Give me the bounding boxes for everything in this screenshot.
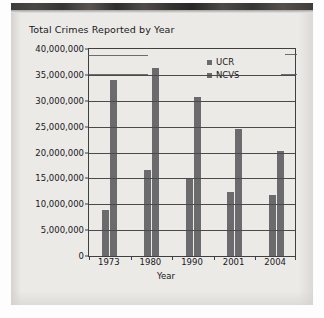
gridline bbox=[89, 153, 295, 154]
paper-sheet: Total Crimes Reported by Year UCRNCVS 05… bbox=[11, 13, 313, 305]
bar-ncvs-2001 bbox=[235, 129, 242, 256]
x-axis-tick-label-1990: 1990 bbox=[181, 257, 203, 267]
y-axis-tick-label: 20,000,000 bbox=[35, 148, 84, 158]
gridline bbox=[89, 178, 295, 179]
x-axis-tick-label-1980: 1980 bbox=[140, 257, 162, 267]
y-axis-tick-mark bbox=[85, 126, 89, 127]
y-axis-tick-mark bbox=[85, 178, 89, 179]
x-axis-tick-mark bbox=[172, 256, 173, 260]
gridline bbox=[89, 204, 295, 205]
scanned-page: Total Crimes Reported by Year UCRNCVS 05… bbox=[0, 0, 324, 318]
x-axis-tick-mark bbox=[214, 256, 215, 260]
x-axis-tick-label-2004: 2004 bbox=[264, 257, 286, 267]
x-axis-tick-mark bbox=[131, 256, 132, 260]
y-axis-tick-mark bbox=[85, 230, 89, 231]
bar-ucr-1973 bbox=[102, 210, 109, 256]
gridline bbox=[89, 101, 295, 102]
x-axis-tick-label-2001: 2001 bbox=[223, 257, 245, 267]
y-axis-tick-mark bbox=[85, 204, 89, 205]
bar-ucr-2001 bbox=[227, 192, 234, 256]
y-axis-tick-label: 15,000,000 bbox=[35, 173, 84, 183]
y-axis-tick-mark bbox=[85, 152, 89, 153]
legend-label: UCR bbox=[216, 58, 234, 67]
chart-legend: UCRNCVS bbox=[207, 56, 240, 82]
x-axis-tick-mark bbox=[295, 256, 296, 260]
x-axis-label-text: Year bbox=[157, 271, 175, 281]
y-axis-tick-label: 0 bbox=[79, 251, 84, 261]
bar-chart-figure: Total Crimes Reported by Year UCRNCVS 05… bbox=[11, 13, 313, 305]
x-axis-tick-mark bbox=[89, 256, 90, 260]
y-axis-tick-mark bbox=[85, 49, 89, 50]
scan-shadow-band bbox=[11, 3, 313, 10]
legend-item-ucr: UCR bbox=[207, 56, 240, 69]
y-axis-tick-label: 25,000,000 bbox=[35, 122, 84, 132]
y-axis-tick-mark bbox=[85, 100, 89, 101]
gridline bbox=[89, 75, 295, 76]
x-axis-tick-label-1973: 1973 bbox=[98, 257, 120, 267]
legend-swatch-icon bbox=[207, 60, 212, 65]
gridline bbox=[89, 230, 295, 231]
chart-title: Total Crimes Reported by Year bbox=[29, 24, 175, 35]
gridline bbox=[89, 127, 295, 128]
y-axis-tick-mark bbox=[85, 74, 89, 75]
x-axis-tick-mark bbox=[255, 256, 256, 260]
plot-area: UCRNCVS 05,000,00010,000,00015,000,00020… bbox=[88, 48, 296, 257]
bar-ucr-1980 bbox=[144, 170, 151, 256]
x-axis-label: Year bbox=[11, 271, 313, 281]
y-axis-tick-label: 40,000,000 bbox=[35, 44, 84, 54]
y-axis-tick-label: 5,000,000 bbox=[41, 225, 84, 235]
y-axis-tick-label: 30,000,000 bbox=[35, 96, 84, 106]
scan-streak bbox=[285, 54, 297, 55]
scan-streak bbox=[88, 55, 148, 56]
y-axis-tick-label: 10,000,000 bbox=[35, 199, 84, 209]
bar-ncvs-1990 bbox=[194, 97, 201, 256]
y-axis-tick-label: 35,000,000 bbox=[35, 70, 84, 80]
bar-ncvs-1980 bbox=[152, 68, 159, 256]
bar-ucr-1990 bbox=[186, 179, 193, 256]
